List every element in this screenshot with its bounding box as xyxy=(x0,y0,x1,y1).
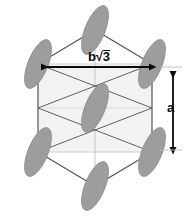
ellipse-bottom-center xyxy=(76,158,114,214)
radical-overbar xyxy=(103,50,110,51)
dimension-label-vertical: a xyxy=(167,101,174,114)
dimension-label-horizontal-base: b xyxy=(88,49,96,64)
radical-sign: √ xyxy=(96,49,103,64)
figure-root: b√3 a xyxy=(0,0,191,217)
lattice-diagram xyxy=(0,0,191,217)
radical-wrap: √3 xyxy=(96,50,110,63)
dimension-label-horizontal: b√3 xyxy=(88,50,110,63)
